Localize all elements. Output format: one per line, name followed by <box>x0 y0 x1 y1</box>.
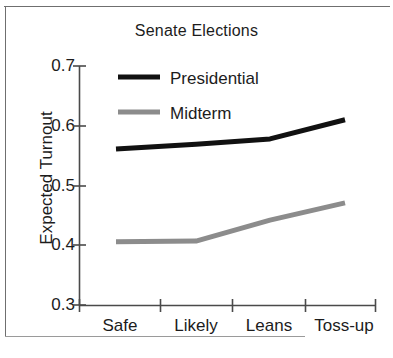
plot-area <box>0 0 393 358</box>
series-line-presidential <box>116 120 345 149</box>
chart-figure: Senate Elections Expected Turnout 0.7 0.… <box>0 0 393 358</box>
series-line-midterm <box>116 203 345 242</box>
